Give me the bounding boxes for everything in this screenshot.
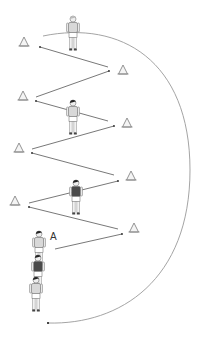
run-path-arrow: [32, 153, 114, 175]
cone-icon: [18, 91, 29, 100]
return-arc-path: [43, 33, 190, 323]
cone-icon: [126, 171, 137, 180]
run-path-arrow: [55, 234, 122, 249]
cone-icon: [129, 223, 140, 232]
player-mid-1-figure: [67, 100, 80, 135]
cone-icon: [122, 118, 133, 127]
zigzag-run-paths: [29, 47, 122, 249]
drill-diagram: [0, 0, 204, 340]
return-run-arc: [43, 33, 190, 323]
players: [30, 16, 83, 312]
player-a-label: A: [50, 231, 57, 242]
run-path-arrow: [32, 126, 114, 149]
cone-icon: [14, 143, 25, 152]
cone-icon: [118, 65, 129, 74]
player-mid-2-figure: [70, 180, 83, 215]
run-path-arrow: [36, 71, 109, 97]
player-top-figure: [67, 16, 80, 51]
cone-icon: [19, 37, 30, 46]
cone-icon: [10, 196, 21, 205]
